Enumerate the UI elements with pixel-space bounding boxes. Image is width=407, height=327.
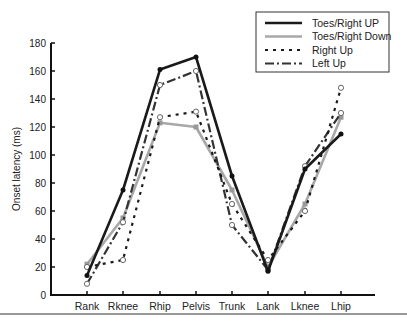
data-point <box>158 67 163 72</box>
legend-label: Toes/Right UP <box>312 17 379 29</box>
data-point <box>157 115 162 120</box>
data-point <box>303 167 308 172</box>
legend-label: Toes/Right Down <box>312 30 392 42</box>
x-tick-label: Rknee <box>108 300 139 312</box>
x-tick-label: Lknee <box>291 300 320 312</box>
y-tick-label: 80 <box>35 178 47 189</box>
data-point <box>85 273 90 278</box>
y-tick-label: 180 <box>29 38 46 49</box>
data-point <box>121 188 126 193</box>
series-line <box>87 117 341 267</box>
y-tick-label: 160 <box>29 66 46 77</box>
data-point <box>230 188 235 193</box>
x-tick-label: Rhip <box>149 300 171 312</box>
y-tick-label: 140 <box>29 94 46 105</box>
line-chart: 020406080100120140160180RankRkneeRhipPel… <box>0 0 407 327</box>
data-point <box>194 125 199 130</box>
x-tick-label: Trunk <box>219 300 246 312</box>
x-tick-label: Lhip <box>331 300 351 312</box>
y-tick-label: 100 <box>29 150 46 161</box>
data-point <box>193 109 198 114</box>
y-axis-label: Onset latency (ms) <box>11 127 22 211</box>
data-point <box>230 174 235 179</box>
data-point <box>229 201 234 206</box>
data-point <box>120 220 125 225</box>
y-tick-label: 40 <box>35 234 47 245</box>
x-tick-label: Rank <box>75 300 100 312</box>
data-point <box>338 85 343 90</box>
legend-label: Left Up <box>312 57 346 69</box>
data-point <box>120 257 125 262</box>
data-point <box>338 110 343 115</box>
data-point <box>229 222 234 227</box>
legend-label: Right Up <box>312 44 353 56</box>
data-point <box>339 132 344 137</box>
divider <box>0 313 407 315</box>
y-tick-label: 20 <box>35 262 47 273</box>
data-point <box>266 269 271 274</box>
y-tick-label: 60 <box>35 206 47 217</box>
y-tick-label: 0 <box>40 290 46 301</box>
legend: Toes/Right UPToes/Right DownRight UpLeft… <box>256 12 392 72</box>
x-tick-label: Pelvis <box>182 300 210 312</box>
series-lines <box>84 55 343 287</box>
y-tick-label: 120 <box>29 122 46 133</box>
data-point <box>157 82 162 87</box>
x-tick-label: Lank <box>257 300 281 312</box>
data-point <box>265 257 270 262</box>
axes: 020406080100120140160180RankRkneeRhipPel… <box>11 38 375 313</box>
data-point <box>194 55 199 60</box>
data-point <box>84 281 89 286</box>
data-point <box>302 208 307 213</box>
data-point <box>193 68 198 73</box>
